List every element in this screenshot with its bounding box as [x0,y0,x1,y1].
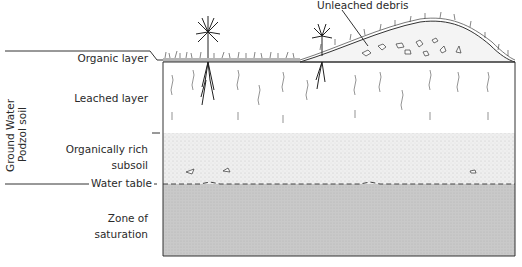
subsoil-zone [163,133,515,184]
soil-profile-diagram [0,0,522,267]
label-subsoil: subsoil [40,159,148,171]
debris-mound [300,21,515,62]
label-organically-rich: Organically rich [40,143,148,155]
label-saturation: saturation [40,228,148,240]
side-label-ground-water: Ground Water [4,99,16,172]
label-water-table: Water table [89,177,154,189]
leached-zone [163,62,515,133]
label-unleached-debris: Unleached debris [317,0,409,11]
side-label-podzol-soil: Podzol soil [16,107,28,162]
label-zone-of: Zone of [40,212,148,224]
organic-layer-band [163,58,300,62]
label-organic-layer: Organic layer [60,52,148,64]
label-leached-layer: Leached layer [60,92,148,104]
saturation-zone [163,184,515,256]
